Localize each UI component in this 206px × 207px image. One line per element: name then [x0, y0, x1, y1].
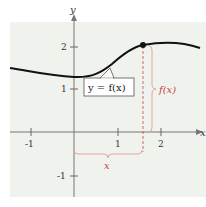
horizontal-brace-label: x — [104, 160, 110, 171]
callout-label: y = f(x) — [87, 82, 126, 93]
vertical-brace-label: f(x) — [158, 84, 176, 95]
point-on-curve — [140, 42, 146, 48]
x-axis-label: x — [200, 127, 206, 138]
y-axis-arrow-icon — [71, 14, 77, 21]
y-tick-label-2: 2 — [61, 42, 67, 52]
x-tick-label--1: -1 — [25, 139, 34, 149]
y-axis-label: y — [69, 4, 76, 15]
function-diagram: x y -1 1 2 2 1 -1 f(x) x y = f(x) — [0, 0, 206, 207]
y-tick-label--1: -1 — [57, 171, 66, 181]
x-tick-label-2: 2 — [158, 139, 164, 149]
x-tick-label-1: 1 — [115, 139, 121, 149]
y-tick-label-1: 1 — [61, 84, 67, 94]
